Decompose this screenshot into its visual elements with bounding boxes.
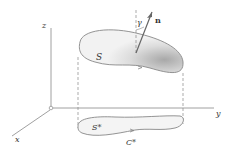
boundary-curve-label: C* bbox=[126, 138, 136, 147]
angle-label: γ bbox=[137, 18, 142, 27]
surface-label: S bbox=[96, 52, 102, 62]
projected-region-label: S* bbox=[92, 123, 101, 132]
z-axis-label: z bbox=[41, 21, 47, 30]
normal-label: n bbox=[155, 15, 161, 25]
origin-marker bbox=[49, 106, 53, 110]
surface-s bbox=[79, 30, 183, 73]
x-axis-label: x bbox=[15, 135, 20, 144]
x-axis bbox=[12, 110, 50, 136]
angle-arc bbox=[136, 27, 144, 30]
y-axis-label: y bbox=[215, 109, 221, 118]
surface-integral-diagram: z y x S γ n S* C* bbox=[0, 0, 231, 152]
